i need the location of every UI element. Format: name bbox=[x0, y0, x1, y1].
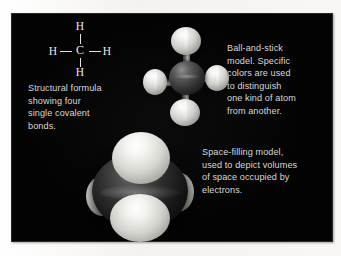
caption-ball-and-stick: Ball-and-stick model. Specific colors ar… bbox=[227, 42, 331, 118]
spacefill-hydrogen-bottom bbox=[110, 194, 170, 242]
caption-space-filling: Space-filling model, used to depict volu… bbox=[202, 146, 330, 196]
atom-label-hydrogen-bottom: H bbox=[74, 67, 86, 79]
spacefill-hydrogen-top bbox=[112, 132, 170, 184]
hydrogen-sphere-top bbox=[171, 27, 201, 55]
bond-line-right bbox=[89, 51, 101, 52]
atom-label-carbon-center: C bbox=[74, 45, 86, 57]
hydrogen-sphere-left bbox=[143, 69, 167, 95]
atom-label-hydrogen-left: H bbox=[47, 46, 59, 58]
ball-and-stick-model-image bbox=[143, 25, 229, 127]
hydrogen-sphere-bottom bbox=[170, 99, 200, 126]
caption-structural-formula: Structural formula showing four single c… bbox=[28, 82, 140, 132]
atom-label-hydrogen-top: H bbox=[74, 21, 86, 33]
space-filling-model-image bbox=[84, 132, 196, 240]
hydrogen-sphere-right bbox=[205, 65, 229, 91]
figure-root: H H C H H Structural formula s bbox=[0, 0, 341, 256]
structural-formula-diagram: H H C H H bbox=[41, 19, 119, 75]
bond-line-left bbox=[60, 51, 72, 52]
carbon-sphere-center bbox=[169, 61, 205, 95]
black-plate-background: H H C H H Structural formula s bbox=[11, 13, 333, 242]
atom-label-hydrogen-right: H bbox=[101, 46, 113, 58]
